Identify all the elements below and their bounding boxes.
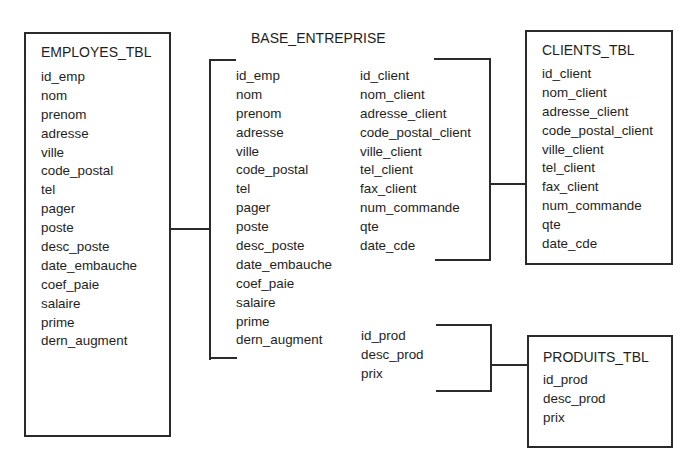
field: nom: [41, 87, 137, 106]
field: date_embauche: [41, 257, 137, 276]
central-product-field-list: id_prod desc_prod prix: [361, 327, 424, 384]
field: poste: [41, 219, 137, 238]
field: code_postal: [236, 161, 332, 180]
central-employee-field-list: id_emp nom prenom adresse ville code_pos…: [236, 67, 332, 350]
field: tel_client: [542, 159, 653, 178]
field: dern_augment: [236, 331, 332, 350]
employes-field-list: id_emp nom prenom adresse ville code_pos…: [41, 68, 137, 351]
field: ville_client: [542, 141, 653, 160]
employee-bracket-bottom: [209, 357, 237, 359]
produits-field-list: id_prod desc_prod prix: [543, 371, 606, 428]
field: desc_poste: [236, 237, 332, 256]
field: date_embauche: [236, 256, 332, 275]
field: poste: [236, 218, 332, 237]
field: tel: [41, 181, 137, 200]
field: prix: [543, 409, 606, 428]
field: nom_client: [542, 84, 653, 103]
field: ville: [41, 144, 137, 163]
field: id_prod: [543, 371, 606, 390]
field: tel: [236, 180, 332, 199]
field: code_postal_client: [360, 124, 471, 143]
client-bracket-top: [434, 58, 491, 60]
client-connector-line: [489, 183, 526, 185]
field: adresse: [236, 124, 332, 143]
field: date_cde: [542, 235, 653, 254]
field: id_client: [542, 65, 653, 84]
field: coef_paie: [236, 275, 332, 294]
field: code_postal: [41, 162, 137, 181]
employee-bracket-vertical: [209, 59, 211, 360]
product-bracket-top: [436, 324, 492, 326]
employee-bracket-top: [209, 59, 236, 61]
client-bracket-bottom: [435, 259, 491, 261]
field: desc_poste: [41, 238, 137, 257]
field: desc_prod: [543, 390, 606, 409]
field: pager: [41, 200, 137, 219]
field: adresse: [41, 125, 137, 144]
field: fax_client: [542, 178, 653, 197]
field: salaire: [236, 294, 332, 313]
field: dern_augment: [41, 332, 137, 351]
field: date_cde: [360, 237, 471, 256]
product-bracket-bottom: [436, 390, 492, 392]
field: coef_paie: [41, 276, 137, 295]
field: prime: [41, 314, 137, 333]
field: prenom: [236, 105, 332, 124]
field: code_postal_client: [542, 122, 653, 141]
field: fax_client: [360, 180, 471, 199]
central-client-field-list: id_client nom_client adresse_client code…: [360, 67, 471, 256]
field: num_commande: [360, 199, 471, 218]
field: desc_prod: [361, 346, 424, 365]
field: id_client: [360, 67, 471, 86]
field: salaire: [41, 295, 137, 314]
clients-table-title: CLIENTS_TBL: [542, 41, 635, 59]
field: nom: [236, 86, 332, 105]
field: nom_client: [360, 86, 471, 105]
product-bracket-vertical: [490, 324, 492, 392]
field: tel_client: [360, 161, 471, 180]
clients-field-list: id_client nom_client adresse_client code…: [542, 65, 653, 254]
produits-table-title: PRODUITS_TBL: [543, 348, 649, 366]
field: ville: [236, 143, 332, 162]
field: id_prod: [361, 327, 424, 346]
client-bracket-vertical: [489, 58, 491, 261]
field: prix: [361, 365, 424, 384]
field: prenom: [41, 106, 137, 125]
field: qte: [542, 216, 653, 235]
field: id_emp: [41, 68, 137, 87]
employes-table-title: EMPLOYES_TBL: [41, 43, 152, 61]
field: pager: [236, 199, 332, 218]
field: qte: [360, 218, 471, 237]
field: id_emp: [236, 67, 332, 86]
field: adresse_client: [360, 105, 471, 124]
product-connector-line: [490, 364, 528, 366]
field: adresse_client: [542, 103, 653, 122]
field: prime: [236, 313, 332, 332]
employes-connector-line: [170, 228, 211, 230]
field: ville_client: [360, 143, 471, 162]
field: num_commande: [542, 197, 653, 216]
central-schema-title: BASE_ENTREPRISE: [251, 29, 386, 47]
